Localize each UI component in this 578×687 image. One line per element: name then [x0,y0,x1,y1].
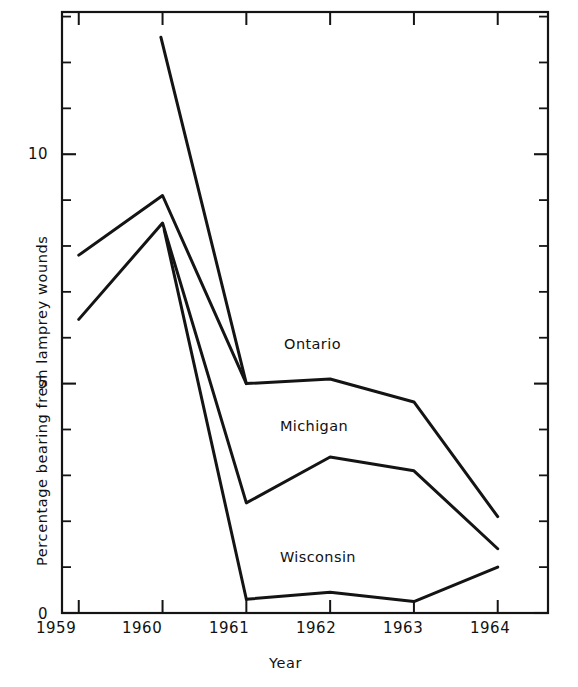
x-tick-label-1963: 1963 [383,619,423,637]
axis-ticks [62,12,548,613]
series-label-ontario: Ontario [284,336,341,352]
y-axis-title: Percentage bearing fresh lamprey wounds [34,236,50,566]
y-tick-label-10: 10 [8,145,48,163]
x-tick-label-1961: 1961 [209,619,249,637]
plot-frame [62,12,548,613]
x-axis-title: Year [269,655,302,671]
series-label-michigan: Michigan [280,418,348,434]
data-lines [79,37,498,601]
x-tick-label-1964: 1964 [470,619,510,637]
x-tick-label-1959: 1959 [36,619,76,637]
series-label-wisconsin: Wisconsin [280,549,356,565]
x-tick-label-1960: 1960 [122,619,162,637]
x-tick-label-1962: 1962 [296,619,336,637]
chart-figure: Percentage bearing fresh lamprey wounds … [0,0,578,687]
y-tick-label-5: 5 [14,374,48,392]
